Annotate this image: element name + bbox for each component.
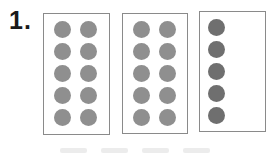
counter-dot-icon (208, 107, 225, 124)
counter-dot-icon (159, 21, 176, 38)
counter-dot-icon (159, 43, 176, 60)
counter-dot-icon (80, 43, 97, 60)
ten-frame-2 (122, 13, 188, 134)
counter-dot-icon (80, 87, 97, 104)
counter-dot-icon (54, 65, 71, 82)
counter-dot-icon (54, 109, 71, 126)
counter-dot-icon (208, 63, 225, 80)
problem-number: 1. (9, 6, 32, 35)
counter-dot-icon (80, 65, 97, 82)
counter-dot-icon (133, 43, 150, 60)
counter-dot-icon (133, 109, 150, 126)
counter-dot-icon (159, 65, 176, 82)
counter-dot-icon (208, 19, 225, 36)
counter-dot-icon (208, 41, 225, 58)
counter-dot-icon (80, 21, 97, 38)
counter-dot-icon (159, 109, 176, 126)
counter-dot-icon (133, 21, 150, 38)
counter-dot-icon (133, 65, 150, 82)
counter-dot-icon (80, 109, 97, 126)
counter-dot-icon (208, 85, 225, 102)
counter-dot-icon (54, 21, 71, 38)
counter-dot-icon (133, 87, 150, 104)
counter-dot-icon (159, 87, 176, 104)
counter-dot-icon (54, 87, 71, 104)
counter-dot-icon (54, 43, 71, 60)
faint-answer-line (60, 148, 210, 154)
